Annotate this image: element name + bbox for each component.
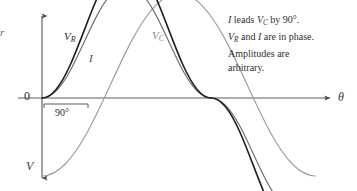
curve-label-i: I xyxy=(89,53,93,64)
origin-label: 0 xyxy=(24,90,30,102)
x-axis-label: θ xyxy=(338,91,344,103)
curve-label-vc-subscript: C xyxy=(159,34,164,43)
phase-bracket-label: 90° xyxy=(55,108,69,118)
y-axis-label: V xyxy=(26,160,33,172)
note-line-1-by90: by 90°. xyxy=(268,14,300,25)
note-line-2-and: and xyxy=(239,31,258,42)
explanatory-note: I leads VC by 90°. VR and I are in phase… xyxy=(228,13,352,74)
curve-label-vr: VR xyxy=(64,31,76,44)
note-line-1-leads: leads xyxy=(231,14,257,25)
phasor-waveform-figure: r 0 V θ 90° VR I VC xyxy=(0,0,357,191)
note-line-3: Amplitudes are xyxy=(228,47,352,60)
note-line-1: I leads VC by 90°. xyxy=(228,13,352,30)
curve-label-vr-subscript: R xyxy=(71,35,76,44)
note-line-2: VR and I are in phase. xyxy=(228,30,352,47)
curve-label-vc: VC xyxy=(152,30,164,43)
note-line-2-inphase: are in phase. xyxy=(261,31,314,42)
curve-label-vr-base: V xyxy=(64,30,71,42)
note-line-4: arbitrary. xyxy=(228,61,352,74)
curve-label-vc-base: V xyxy=(152,29,159,41)
